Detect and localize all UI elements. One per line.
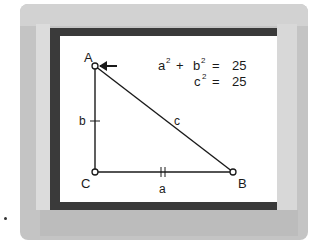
side-label-c: c (174, 114, 180, 128)
svg-text:b: b (193, 58, 200, 73)
equation-line-1: a 2 + b 2 = 25 (158, 56, 246, 73)
svg-text:=: = (212, 58, 220, 73)
side-label-b: b (79, 114, 86, 128)
svg-text:=: = (212, 74, 220, 89)
vertex-label-c: C (81, 176, 90, 191)
svg-text:2: 2 (201, 56, 206, 65)
svg-text:c: c (194, 74, 201, 89)
svg-text:a: a (158, 58, 166, 73)
vertex-label-b: B (238, 176, 247, 191)
side-label-a: a (159, 182, 166, 196)
arrow-pointer-icon (99, 61, 117, 71)
svg-text:25: 25 (232, 74, 246, 89)
triangle-diagram: A C B a b c a 2 + b 2 = 25 c 2 = 25 (0, 0, 315, 243)
svg-text:2: 2 (202, 72, 207, 81)
svg-text:25: 25 (232, 58, 246, 73)
vertex-b-point[interactable] (230, 169, 236, 175)
vertex-label-a: A (84, 50, 93, 65)
vertex-c-point[interactable] (92, 169, 98, 175)
vertex-a-point[interactable] (92, 63, 98, 69)
svg-text:2: 2 (166, 56, 171, 65)
bullet-dot (4, 217, 7, 220)
equation-line-2: c 2 = 25 (194, 72, 246, 89)
svg-text:+: + (176, 58, 184, 73)
